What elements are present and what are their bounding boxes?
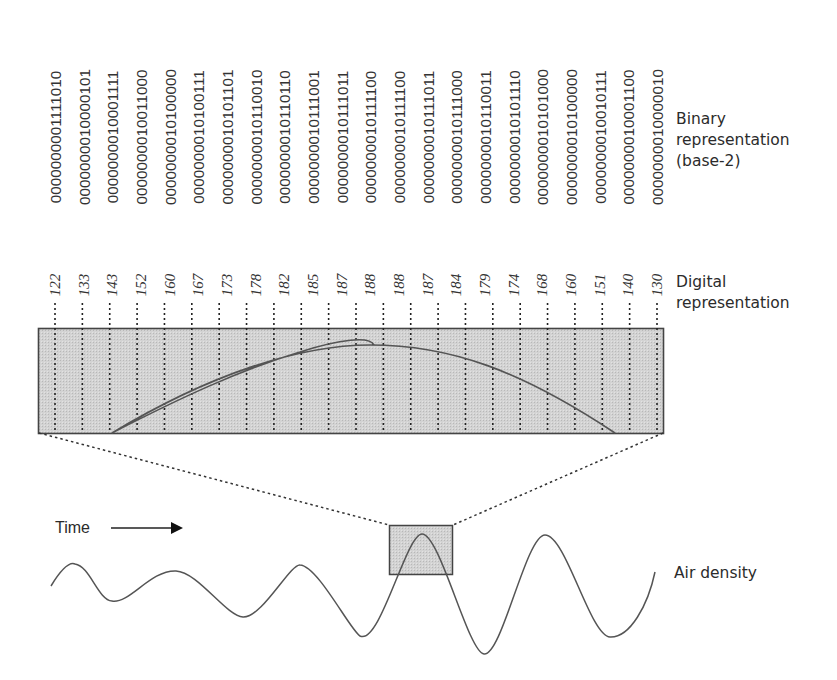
digital-value-text: 122 bbox=[47, 274, 64, 297]
binary-value-text: 0000000010111100 bbox=[391, 71, 408, 204]
binary-value-text: 0000000010101101 bbox=[219, 70, 236, 205]
binary-value: 0000000010011000 bbox=[133, 40, 149, 234]
digital-value-text: 182 bbox=[276, 274, 293, 297]
digital-value-text: 151 bbox=[591, 274, 608, 297]
digital-value-text: 133 bbox=[75, 274, 92, 297]
digital-value: 160 bbox=[162, 268, 178, 302]
digital-value-text: 187 bbox=[419, 274, 436, 297]
digital-value-text: 143 bbox=[104, 274, 121, 297]
binary-value: 0000000010110011 bbox=[477, 40, 493, 234]
binary-value: 0000000010000101 bbox=[76, 40, 92, 234]
digital-value-text: 152 bbox=[133, 274, 150, 297]
digital-value: 188 bbox=[391, 268, 407, 302]
binary-value-text: 0000000001111010 bbox=[47, 71, 64, 204]
binary-value-text: 0000000010111000 bbox=[448, 70, 465, 204]
binary-value: 0000000010101110 bbox=[506, 40, 522, 234]
digital-value: 187 bbox=[420, 268, 436, 302]
digital-value: 187 bbox=[334, 268, 350, 302]
binary-value-text: 0000000010111011 bbox=[333, 71, 350, 204]
air-density-waveform bbox=[51, 534, 655, 654]
digital-value: 151 bbox=[592, 268, 608, 302]
binary-value-text: 0000000010100111 bbox=[190, 70, 207, 204]
binary-value-text: 0000000010100000 bbox=[161, 69, 178, 205]
binary-value-text: 0000000010010111 bbox=[591, 70, 608, 204]
binary-value: 0000000010010111 bbox=[592, 40, 608, 234]
digital-value-text: 179 bbox=[477, 274, 494, 297]
digital-value-text: 188 bbox=[362, 274, 379, 297]
digital-value-text: 140 bbox=[620, 274, 637, 297]
binary-value: 0000000010110110 bbox=[276, 40, 292, 234]
time-arrow-head-icon bbox=[171, 522, 183, 534]
binary-value: 0000000010101101 bbox=[219, 40, 235, 234]
binary-value-text: 0000000010111001 bbox=[305, 70, 322, 204]
binary-value: 0000000010111100 bbox=[391, 40, 407, 234]
digital-value-text: 167 bbox=[190, 274, 207, 297]
zoomed-sample-box bbox=[39, 329, 664, 434]
binary-value-text: 0000000010101000 bbox=[534, 69, 551, 205]
digital-value-text: 130 bbox=[649, 274, 666, 297]
binary-value-text: 0000000010100000 bbox=[563, 69, 580, 205]
digital-value-text: 168 bbox=[534, 274, 551, 297]
digital-value: 160 bbox=[563, 268, 579, 302]
binary-label-line-1: Binary bbox=[676, 109, 790, 130]
air-density-label: Air density bbox=[674, 563, 757, 584]
digital-value: 174 bbox=[506, 268, 522, 302]
digital-value-text: 188 bbox=[391, 274, 408, 297]
binary-value-text: 0000000010001100 bbox=[620, 70, 637, 205]
binary-value: 0000000010100111 bbox=[190, 40, 206, 234]
binary-value: 0000000010111011 bbox=[334, 40, 350, 234]
binary-value: 0000000010100000 bbox=[563, 40, 579, 234]
digital-value: 152 bbox=[133, 268, 149, 302]
binary-value-text: 0000000010101110 bbox=[505, 70, 522, 204]
digital-value: 122 bbox=[47, 268, 63, 302]
binary-representation-label: Binary representation (base-2) bbox=[676, 109, 790, 172]
zoom-connector-right bbox=[453, 433, 663, 525]
digital-label-line-2: representation bbox=[676, 293, 790, 314]
binary-value-text: 0000000010011000 bbox=[133, 70, 150, 205]
digital-value-text: 173 bbox=[219, 274, 236, 297]
binary-value-text: 0000000010000101 bbox=[75, 69, 92, 205]
digital-representation-label: Digital representation bbox=[676, 272, 790, 314]
digital-value: 168 bbox=[534, 268, 550, 302]
digital-value: 179 bbox=[477, 268, 493, 302]
digital-value-text: 187 bbox=[333, 274, 350, 297]
diagram-canvas: 0000000001111010000000001000010100000000… bbox=[0, 0, 837, 680]
digital-value: 184 bbox=[448, 268, 464, 302]
binary-value: 0000000010111000 bbox=[448, 40, 464, 234]
digital-value-text: 178 bbox=[247, 274, 264, 297]
digital-value: 143 bbox=[104, 268, 120, 302]
binary-value: 0000000010001100 bbox=[620, 40, 636, 234]
digital-value-text: 174 bbox=[505, 274, 522, 297]
binary-value-text: 0000000010000010 bbox=[649, 69, 666, 205]
binary-value-text: 0000000010110011 bbox=[477, 70, 494, 204]
digital-value: 173 bbox=[219, 268, 235, 302]
digital-value-text: 185 bbox=[305, 274, 322, 297]
digital-label-line-1: Digital bbox=[676, 272, 790, 293]
binary-label-line-2: representation bbox=[676, 130, 790, 151]
digital-value: 140 bbox=[620, 268, 636, 302]
digital-value: 182 bbox=[276, 268, 292, 302]
binary-value-text: 0000000010110110 bbox=[276, 70, 293, 204]
digital-value-text: 160 bbox=[563, 274, 580, 297]
digital-value: 178 bbox=[248, 268, 264, 302]
binary-value-text: 0000000010001111 bbox=[104, 71, 121, 204]
binary-value: 0000000010101000 bbox=[534, 40, 550, 234]
digital-value: 185 bbox=[305, 268, 321, 302]
binary-value: 0000000010111100 bbox=[362, 40, 378, 234]
binary-value: 0000000010111011 bbox=[420, 40, 436, 234]
digital-value: 130 bbox=[649, 268, 665, 302]
digital-value: 133 bbox=[76, 268, 92, 302]
binary-value-text: 0000000010111100 bbox=[362, 71, 379, 204]
binary-value: 0000000001111010 bbox=[47, 40, 63, 234]
binary-value-text: 0000000010110010 bbox=[247, 70, 264, 205]
binary-value-text: 0000000010111011 bbox=[419, 71, 436, 204]
binary-label-line-3: (base-2) bbox=[676, 151, 790, 172]
binary-value: 0000000010100000 bbox=[162, 40, 178, 234]
binary-value: 0000000010110010 bbox=[248, 40, 264, 234]
binary-value: 0000000010111001 bbox=[305, 40, 321, 234]
digital-value: 188 bbox=[362, 268, 378, 302]
time-label: Time bbox=[55, 519, 90, 537]
binary-value: 0000000010001111 bbox=[104, 40, 120, 234]
digital-value-text: 160 bbox=[161, 274, 178, 297]
digital-value: 167 bbox=[190, 268, 206, 302]
